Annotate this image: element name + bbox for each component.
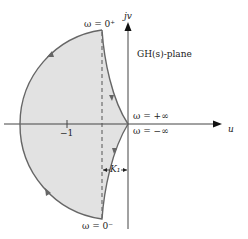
gap-label: K₁ <box>110 165 120 174</box>
omega-neg-inf-label: ω = −∞ <box>133 127 169 136</box>
nyquist-diagram: jv ω = 0⁺ GH(s)-plane ω = +∞ ω = −∞ u −1… <box>0 0 248 239</box>
plane-label: GH(s)-plane <box>137 50 192 59</box>
real-axis-label: u <box>228 125 234 134</box>
real-axis-arrow-icon <box>213 121 222 128</box>
omega-top-label: ω = 0⁺ <box>84 20 115 29</box>
omega-bottom-label: ω = 0⁻ <box>82 222 113 231</box>
omega-pos-inf-label: ω = +∞ <box>133 112 169 121</box>
imag-axis-arrow-icon <box>125 22 132 31</box>
tick-label-minus-one: −1 <box>60 129 73 138</box>
diagram-graphics <box>0 0 248 239</box>
imag-axis-label: jv <box>124 12 132 21</box>
